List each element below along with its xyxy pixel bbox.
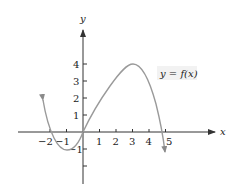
svg-text:2: 2 (73, 93, 79, 104)
y-tick-labels: 4 3 2 1 −1 (68, 59, 83, 156)
svg-text:3: 3 (73, 76, 79, 87)
svg-text:5: 5 (166, 136, 172, 147)
x-axis-label: x (220, 126, 226, 137)
svg-text:4: 4 (146, 136, 152, 147)
svg-text:3: 3 (129, 136, 135, 147)
svg-text:−2: −2 (38, 136, 53, 147)
y-ticks (83, 64, 87, 166)
y-axis-label: y (79, 13, 86, 24)
svg-text:1: 1 (96, 136, 102, 147)
svg-text:1: 1 (73, 110, 79, 121)
function-graph: x y −2 −1 1 2 3 4 5 4 3 2 1 −1 (0, 0, 236, 195)
svg-text:4: 4 (73, 59, 79, 70)
equation-label: y = f(x) (159, 68, 198, 79)
svg-text:2: 2 (113, 136, 119, 147)
